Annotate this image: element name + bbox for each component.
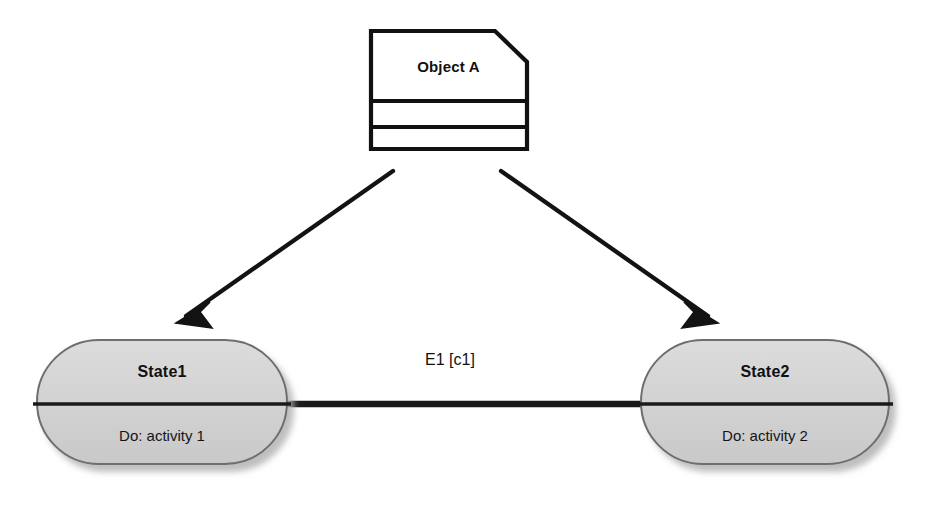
- object-to-state2-arrow[interactable]: [501, 171, 718, 328]
- object-to-state2-arrow-head: [682, 302, 718, 328]
- object-to-state1-arrow[interactable]: [176, 171, 393, 328]
- object-to-state1-arrow-shaft: [186, 171, 393, 316]
- diagram-canvas: Object A State1 Do: activity 1 State2 Do…: [0, 0, 925, 509]
- object-to-state1-arrow-head: [176, 302, 212, 328]
- object-node-outline: [371, 31, 527, 149]
- object-node[interactable]: [371, 31, 527, 149]
- state1-node[interactable]: [37, 340, 287, 464]
- state1-outline: [37, 340, 287, 464]
- diagram-vector-layer: [0, 0, 925, 509]
- object-to-state2-arrow-shaft: [501, 171, 708, 316]
- state2-node[interactable]: [641, 340, 889, 464]
- state2-outline: [641, 340, 889, 464]
